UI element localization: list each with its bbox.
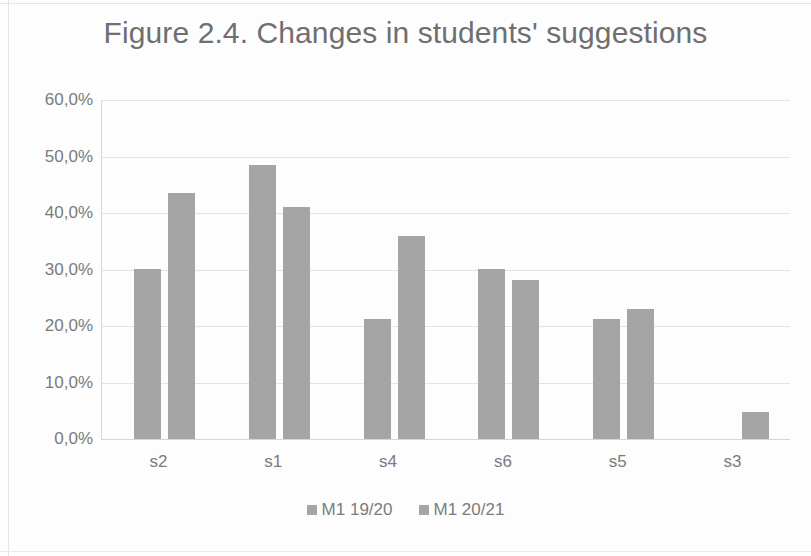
bar: [742, 412, 769, 439]
scan-artifact-top-line: [0, 3, 811, 4]
bar: [398, 236, 425, 439]
y-axis-tick-label: 60,0%: [13, 90, 93, 110]
bar: [627, 309, 654, 439]
y-axis-tick-label: 40,0%: [13, 203, 93, 223]
x-axis-tick-label: s1: [216, 452, 331, 472]
bar: [364, 319, 391, 439]
chart-title: Figure 2.4. Changes in students' suggest…: [0, 16, 811, 50]
legend-swatch-icon: [307, 505, 317, 515]
chart-legend: M1 19/20M1 20/21: [0, 500, 811, 520]
y-axis-tick-label: 50,0%: [13, 147, 93, 167]
legend-entry: M1 20/21: [419, 500, 505, 520]
x-axis-tick-label: s2: [101, 452, 216, 472]
legend-label: M1 19/20: [322, 500, 393, 520]
bar: [478, 269, 505, 439]
y-axis-tick-label: 20,0%: [13, 316, 93, 336]
y-axis-tick-label: 30,0%: [13, 260, 93, 280]
legend-label: M1 20/21: [434, 500, 505, 520]
bar: [168, 193, 195, 439]
x-axis-tick-label: s5: [560, 452, 675, 472]
x-axis-line: [101, 439, 790, 440]
y-axis-tick-labels: 60,0%50,0%40,0%30,0%20,0%10,0%0,0%: [5, 0, 93, 556]
x-axis-tick-label: s4: [331, 452, 446, 472]
legend-entry: M1 19/20: [307, 500, 393, 520]
bar: [512, 280, 539, 439]
x-axis-tick-label: s3: [675, 452, 790, 472]
chart-figure: Figure 2.4. Changes in students' suggest…: [0, 0, 811, 556]
x-axis-tick-label: s6: [446, 452, 561, 472]
bar: [249, 165, 276, 439]
bar: [283, 207, 310, 439]
scan-artifact-bottom-line: [0, 551, 811, 552]
bar: [134, 269, 161, 439]
bars-layer: [101, 100, 790, 439]
y-axis-tick-label: 10,0%: [13, 373, 93, 393]
bar: [593, 319, 620, 439]
y-axis-tick-label: 0,0%: [13, 429, 93, 449]
legend-swatch-icon: [419, 505, 429, 515]
